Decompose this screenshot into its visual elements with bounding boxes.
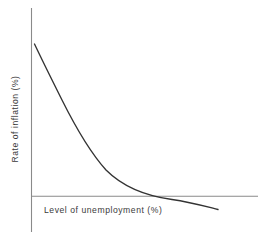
y-axis-label: Rate of inflation (%) <box>11 75 20 162</box>
x-axis-label: Level of unemployment (%) <box>44 206 162 215</box>
phillips-curve-line <box>35 44 219 210</box>
phillips-curve-figure: Rate of inflation (%) Level of unemploym… <box>0 0 266 245</box>
y-axis-label-container: Rate of inflation (%) <box>0 0 30 245</box>
